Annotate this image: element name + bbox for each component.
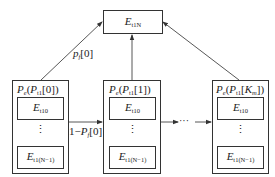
column-box-1: Pe(Pt1[1]) Et10 ⋮ Et1(N−1) xyxy=(103,80,161,174)
vertical-ellipsis-1: ⋮ xyxy=(104,127,160,131)
column-box-0: Pe(Pt1[0]) Et10 ⋮ Et1(N−1) xyxy=(12,80,69,174)
entry-last-0: Et1(N−1) xyxy=(17,146,64,169)
entry-last-K: Et1(N−1) xyxy=(217,146,264,169)
arrow-colK-to-top xyxy=(163,22,239,80)
entry-first-K: Et10 xyxy=(217,97,264,120)
top-node-label: Et1N xyxy=(125,16,141,29)
edge-label-col0-to-top: pf[0] xyxy=(73,48,93,61)
entry-first-1: Et10 xyxy=(109,97,156,120)
column-box-K: Pe(Pt1[Km]) Et10 ⋮ Et1(N−1) xyxy=(212,80,269,174)
column-header-1: Pe(Pt1[1]) xyxy=(109,84,151,97)
entry-last-1: Et1(N−1) xyxy=(109,146,156,169)
edge-label-col0-to-col1: 1−Pf[0] xyxy=(69,126,102,139)
vertical-ellipsis-0: ⋮ xyxy=(13,127,68,131)
column-header-0: Pe(Pt1[0]) xyxy=(17,84,59,97)
entry-first-0: Et10 xyxy=(17,97,64,120)
top-node-box: Et1N xyxy=(103,10,163,34)
chain-ellipsis: ··· xyxy=(179,116,189,126)
vertical-ellipsis-K: ⋮ xyxy=(213,127,268,131)
column-header-K: Pe(Pt1[Km]) xyxy=(216,84,264,97)
